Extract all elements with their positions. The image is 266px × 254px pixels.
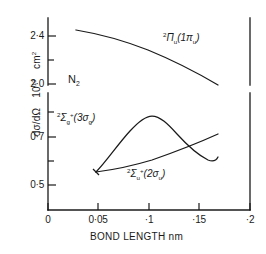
y-title-factor: 10 bbox=[31, 86, 42, 98]
x-tick-label-0-2: ·2 bbox=[238, 215, 262, 225]
curve-sigma-g bbox=[96, 116, 218, 172]
species-subscript: 2 bbox=[76, 80, 80, 87]
sigma-u-paren-close: ) bbox=[162, 168, 165, 179]
x-tick-label-0-1: ·1 bbox=[137, 215, 161, 225]
sigma-g-paren-close: ) bbox=[92, 112, 95, 123]
pi-u-orbital: π bbox=[186, 32, 193, 43]
y-title-factor-exponent: 19 bbox=[30, 79, 37, 86]
x-tick-label-0-15: ·15 bbox=[186, 215, 212, 225]
curve-label-sigma-u: 2Σu+(2σu) bbox=[127, 168, 165, 182]
y-axis-title: dσ/dΩ 1019 cm2 bbox=[30, 34, 46, 154]
sigma-u-term-subscript: u bbox=[136, 174, 139, 181]
figure-root: 2·4 2·0 0·7 0·5 0 0·05 ·1 ·15 ·2 BOND LE… bbox=[0, 0, 266, 254]
species-symbol: N bbox=[68, 73, 76, 85]
y-title-numerator: dσ/dΩ bbox=[31, 108, 42, 137]
pi-u-paren-close: ) bbox=[196, 32, 199, 43]
x-axis-title: BOND LENGTH nm bbox=[90, 232, 183, 242]
y-title-unit: cm bbox=[31, 55, 42, 69]
y-tick-label-0-5: 0·5 bbox=[14, 180, 44, 190]
curve-label-sigma-g: 2Σg+(3σg) bbox=[57, 112, 95, 126]
x-tick-label-0-05: 0·05 bbox=[82, 215, 114, 225]
x-tick-label-0: 0 bbox=[34, 215, 62, 225]
curve-label-pi-u: 2Πu(1πu) bbox=[163, 32, 200, 46]
y-title-unit-exponent: 2 bbox=[30, 52, 37, 56]
curve-sigma-u bbox=[96, 134, 218, 172]
sigma-g-term-subscript: g bbox=[66, 118, 69, 125]
species-annotation: N2 bbox=[68, 74, 80, 88]
pi-u-term: Π bbox=[166, 32, 173, 43]
